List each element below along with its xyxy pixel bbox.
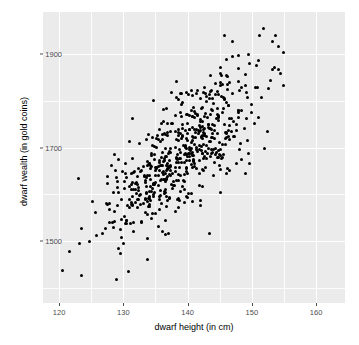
data-point <box>150 217 153 220</box>
data-point <box>274 34 277 37</box>
data-point <box>159 194 162 197</box>
data-point <box>226 75 229 78</box>
data-point <box>257 116 260 119</box>
data-point <box>255 64 258 67</box>
data-point <box>132 221 135 224</box>
data-point <box>199 199 202 202</box>
y-tick-label: 1700 <box>45 143 62 152</box>
data-point <box>231 40 234 43</box>
data-point <box>78 242 81 245</box>
data-point <box>132 171 135 174</box>
data-point <box>230 117 233 120</box>
data-point <box>142 165 145 168</box>
data-point <box>104 227 107 230</box>
data-point <box>145 185 148 188</box>
data-point <box>248 162 251 165</box>
data-point <box>91 200 94 203</box>
data-point <box>188 152 191 155</box>
data-point <box>153 191 156 194</box>
data-point <box>183 173 186 176</box>
data-point <box>136 206 139 209</box>
data-point <box>180 92 183 95</box>
data-point <box>244 172 247 175</box>
data-point <box>203 115 206 118</box>
data-point <box>164 147 167 150</box>
data-point <box>245 91 248 94</box>
data-point <box>239 142 242 145</box>
data-point <box>208 97 211 100</box>
data-point <box>209 140 212 143</box>
data-point <box>122 242 125 245</box>
data-point <box>199 204 202 207</box>
data-point <box>181 127 184 130</box>
data-point <box>153 158 156 161</box>
data-point <box>195 92 198 95</box>
data-point <box>94 211 97 214</box>
data-point <box>219 148 222 151</box>
data-point <box>175 161 178 164</box>
data-point <box>110 164 113 167</box>
x-tick-label: 160 <box>310 308 323 317</box>
data-point <box>243 127 246 130</box>
data-point <box>209 155 212 158</box>
data-point <box>245 117 248 120</box>
data-point <box>240 86 243 89</box>
x-tick-label: 130 <box>117 308 130 317</box>
data-point <box>205 157 208 160</box>
data-point <box>137 198 140 201</box>
data-point <box>152 195 155 198</box>
data-point <box>235 123 238 126</box>
data-point <box>128 198 131 201</box>
x-tick-label: 150 <box>246 308 259 317</box>
data-point <box>254 86 257 89</box>
data-point <box>136 175 139 178</box>
data-point <box>260 96 263 99</box>
data-point <box>202 169 205 172</box>
data-point <box>174 210 177 213</box>
data-point <box>195 148 198 151</box>
data-point <box>134 188 137 191</box>
data-point <box>162 160 165 163</box>
data-point <box>203 86 206 89</box>
data-point <box>146 237 149 240</box>
data-point <box>157 174 160 177</box>
data-point <box>160 202 163 205</box>
data-point <box>188 128 191 131</box>
data-point <box>222 107 225 110</box>
data-point <box>125 219 128 222</box>
data-point <box>177 128 180 131</box>
data-point <box>237 80 240 83</box>
data-point <box>257 59 260 62</box>
x-tick-label: 120 <box>53 308 66 317</box>
data-point <box>117 158 120 161</box>
data-point <box>80 227 83 230</box>
data-point <box>157 225 160 228</box>
data-point <box>244 84 247 87</box>
data-point <box>112 191 115 194</box>
data-point <box>119 228 122 231</box>
data-point <box>186 139 189 142</box>
x-tick-label: 140 <box>181 308 194 317</box>
data-point <box>116 204 119 207</box>
data-point <box>219 168 222 171</box>
data-point <box>137 186 140 189</box>
data-point <box>127 270 130 273</box>
data-point <box>114 169 117 172</box>
data-point <box>134 201 137 204</box>
data-point <box>101 232 104 235</box>
data-point <box>277 68 280 71</box>
data-point <box>179 151 182 154</box>
data-point <box>187 93 190 96</box>
data-point <box>235 129 238 132</box>
data-point <box>238 148 241 151</box>
data-point <box>188 155 191 158</box>
data-point <box>219 191 222 194</box>
data-point <box>149 178 152 181</box>
data-point <box>209 113 212 116</box>
data-point <box>208 93 211 96</box>
data-point <box>220 157 223 160</box>
data-point <box>230 130 233 133</box>
data-point <box>277 45 280 48</box>
data-point <box>221 111 224 114</box>
data-point <box>213 124 216 127</box>
